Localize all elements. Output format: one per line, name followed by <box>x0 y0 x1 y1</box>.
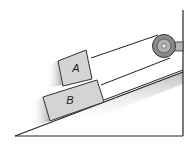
block-a-label: A <box>71 62 79 74</box>
block-b-label: B <box>66 94 73 106</box>
incline-pulley-diagram: B A <box>0 0 196 148</box>
pulley-axle <box>162 44 166 48</box>
block-a: A <box>58 50 92 86</box>
pulley <box>153 35 176 58</box>
